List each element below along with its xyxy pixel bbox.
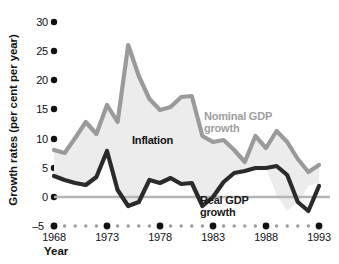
chart-plot-area — [0, 0, 339, 264]
x-tick-label-1993: 1993 — [299, 231, 339, 243]
x-axis-minor-tick-dots — [63, 224, 310, 227]
series-annotation-inflation: Inflation — [132, 134, 173, 146]
x-tick-label-1968: 1968 — [34, 231, 74, 243]
x-tick-label-1988: 1988 — [246, 231, 286, 243]
series-annotation-real-gdp: Real GDP growth — [200, 194, 249, 218]
x-tick-label-1978: 1978 — [140, 231, 180, 243]
series-annotation-nominal-gdp: Nominal GDP growth — [204, 110, 272, 134]
y-tick-label-20: 20 — [22, 74, 48, 86]
y-tick-label-30: 30 — [22, 16, 48, 28]
nominal-label-line2: growth — [204, 122, 239, 134]
x-tick-label-1973: 1973 — [87, 231, 127, 243]
y-tick-label-15: 15 — [22, 103, 48, 115]
nominal-label-line1: Nominal GDP — [204, 110, 272, 122]
x-axis-title: Year — [44, 245, 68, 257]
real-label-line2: growth — [200, 206, 235, 218]
real-label-line1: Real GDP — [200, 194, 249, 206]
y-tick-label-0: 0 — [22, 191, 48, 203]
y-tick-label-25: 25 — [22, 45, 48, 57]
x-tick-label-1983: 1983 — [193, 231, 233, 243]
x-axis-major-tick-dots — [51, 223, 323, 230]
chart-figure: Growth rates (per cent per year) 30 25 2… — [0, 0, 339, 264]
y-tick-label-10: 10 — [22, 133, 48, 145]
y-tick-label-5: 5 — [22, 162, 48, 174]
